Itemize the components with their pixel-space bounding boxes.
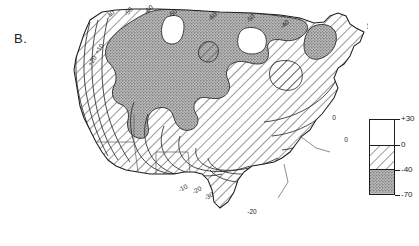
white-inclusion-3 — [270, 60, 303, 90]
legend-tick-low — [395, 170, 400, 171]
white-inclusion-2 — [238, 27, 267, 54]
legend-band-white — [370, 120, 394, 145]
contour-label: -40 — [363, 19, 368, 31]
legend: +30 0 -40 -70 — [369, 119, 417, 199]
legend-divider-upper — [370, 145, 394, 146]
legend-bar — [369, 119, 395, 195]
white-inclusion-4 — [199, 42, 219, 62]
panel-label: B. — [14, 31, 27, 46]
legend-label-bottom: -70 — [401, 191, 413, 199]
legend-band-stipple — [370, 169, 394, 194]
legend-band-hatched — [370, 145, 394, 170]
legend-divider-lower — [370, 169, 394, 170]
map-svg: -40-50-60-50-60-50-40-40-30-20-30+10+200… — [38, 2, 368, 234]
legend-label-top: +30 — [401, 115, 415, 123]
legend-tick-top — [395, 119, 400, 120]
white-inclusion-1 — [161, 15, 184, 44]
figure-panel-b: B. — [0, 0, 419, 246]
legend-tick-bottom — [395, 195, 400, 196]
contour-label: -10 — [177, 182, 189, 193]
contour-label: 0 — [332, 114, 336, 121]
legend-label-mid: 0 — [401, 141, 405, 149]
contour-label: 0 — [344, 136, 348, 143]
contour-map: -40-50-60-50-60-50-40-40-30-20-30+10+200… — [38, 2, 368, 234]
contour-label: -20 — [191, 184, 203, 195]
contour-label: -20 — [247, 208, 257, 215]
legend-tick-mid — [395, 145, 400, 146]
legend-label-low: -40 — [401, 166, 413, 174]
